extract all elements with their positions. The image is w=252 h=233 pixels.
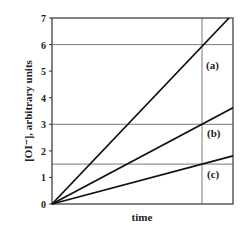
y-tick-2: 2: [41, 146, 46, 157]
series-lines: [52, 18, 233, 204]
y-tick-0: 0: [41, 199, 46, 210]
y-tick-4: 4: [41, 93, 46, 104]
y-axis-label: [OI⁻], arbitrary units: [22, 59, 34, 161]
series-a-line: [52, 18, 229, 204]
chart: 0 1 2 3 4 5 6 7 (a) (b) (c) time [OI⁻], …: [0, 0, 252, 233]
y-tick-1: 1: [41, 172, 46, 183]
y-tick-labels: 0 1 2 3 4 5 6 7: [41, 13, 46, 210]
series-b-line: [52, 108, 233, 204]
y-tick-6: 6: [41, 40, 46, 51]
series-b-label: (b): [207, 127, 221, 140]
y-tick-5: 5: [41, 66, 46, 77]
series-c-line: [52, 156, 233, 204]
series-a-label: (a): [206, 59, 219, 72]
y-tick-7: 7: [41, 13, 46, 24]
series-c-label: (c): [207, 168, 220, 181]
x-axis-label: time: [132, 211, 153, 223]
y-tick-3: 3: [41, 119, 46, 130]
